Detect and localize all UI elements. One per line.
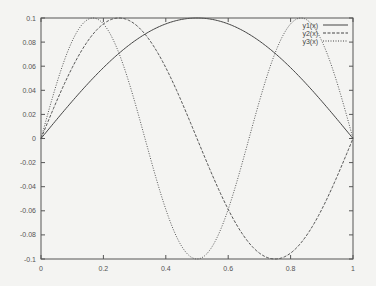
series-y2x <box>41 18 353 259</box>
y-tick-label: -0.1 <box>24 256 36 263</box>
legend-label: y1(x) <box>302 22 318 30</box>
legend: y1(x)y2(x)y3(x) <box>302 22 348 46</box>
line-chart: -0.1-0.08-0.06-0.04-0.0200.020.040.060.0… <box>0 0 376 286</box>
y-tick-label: 0 <box>32 135 36 142</box>
legend-label: y2(x) <box>302 30 318 38</box>
y-tick-label: 0.04 <box>22 87 36 94</box>
y-tick-label: -0.02 <box>20 159 36 166</box>
x-tick-label: 0.4 <box>161 265 171 272</box>
y-tick-label: 0.06 <box>22 63 36 70</box>
x-tick-label: 0 <box>39 265 43 272</box>
plot-curves <box>41 18 353 259</box>
x-tick-label: 1 <box>351 265 355 272</box>
x-tick-label: 0.8 <box>286 265 296 272</box>
legend-label: y3(x) <box>302 38 318 46</box>
y-tick-label: -0.06 <box>20 207 36 214</box>
y-tick-label: 0.1 <box>26 15 36 22</box>
y-axis-ticks: -0.1-0.08-0.06-0.04-0.0200.020.040.060.0… <box>20 15 353 263</box>
y-tick-label: -0.04 <box>20 183 36 190</box>
y-tick-label: -0.08 <box>20 231 36 238</box>
x-tick-label: 0.2 <box>99 265 109 272</box>
y-tick-label: 0.02 <box>22 111 36 118</box>
y-tick-label: 0.08 <box>22 39 36 46</box>
x-tick-label: 0.6 <box>223 265 233 272</box>
